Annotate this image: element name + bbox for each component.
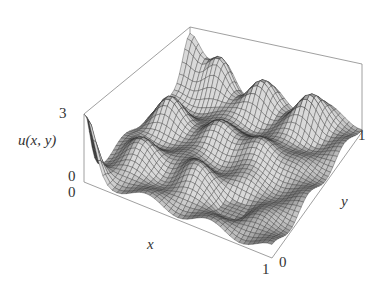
x-axis-label: x bbox=[147, 237, 154, 252]
z-tick-0: 0 bbox=[68, 169, 76, 184]
x-tick-1: 1 bbox=[262, 262, 270, 277]
x-tick-0: 0 bbox=[68, 185, 76, 200]
surface-plot bbox=[0, 0, 384, 292]
z-axis-label: u(x, y) bbox=[18, 133, 56, 148]
z-tick-3: 3 bbox=[59, 106, 67, 121]
y-tick-1: 1 bbox=[358, 128, 366, 143]
y-tick-0: 0 bbox=[279, 255, 287, 270]
surface-mesh bbox=[84, 33, 362, 244]
y-axis-label: y bbox=[341, 194, 348, 209]
